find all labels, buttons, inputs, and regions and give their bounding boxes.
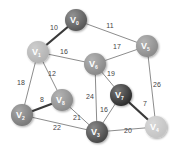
- edge-weight-label: 18: [17, 79, 25, 86]
- edge-weight-label: 12: [48, 70, 56, 77]
- edge-weight-label: 26: [153, 81, 161, 88]
- edge-weight-label: 8: [40, 96, 44, 103]
- node-v6: V6: [84, 53, 106, 75]
- edge-weight-label: 16: [60, 48, 68, 55]
- edge-weight-label: 17: [113, 43, 121, 50]
- node-v1: V1: [27, 41, 49, 63]
- edge-weight-label: 20: [124, 127, 132, 134]
- node-v0: V0: [65, 9, 87, 31]
- edge-weight-label: 22: [53, 124, 61, 131]
- node-v4: V4: [145, 116, 167, 138]
- edge-weight-label: 11: [106, 22, 113, 29]
- edge-weight-label: 19: [107, 70, 115, 77]
- node-v8: V8: [51, 89, 73, 111]
- node-v7: V7: [110, 84, 132, 106]
- node-v5: V5: [136, 35, 158, 57]
- edge-weight-label: 24: [86, 93, 94, 100]
- edge-weight-label: 16: [100, 106, 108, 113]
- node-v3: V3: [86, 121, 108, 143]
- node-v2: V2: [11, 104, 33, 126]
- edge-weight-label: 7: [143, 100, 147, 107]
- edges-layer: [22, 20, 156, 132]
- edge-weight-label: 10: [50, 24, 58, 31]
- edge-weight-label: 21: [73, 114, 81, 121]
- nodes-layer: V0V1V5V6V7V8V2V3V4: [11, 9, 167, 143]
- graph-diagram: 1011161718128222124191672026 V0V1V5V6V7V…: [0, 0, 178, 156]
